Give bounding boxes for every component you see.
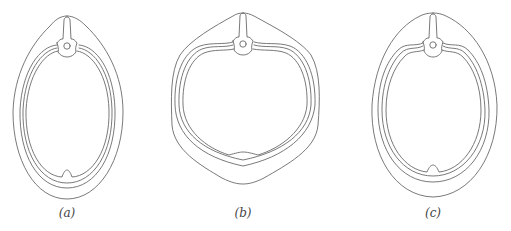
outer-body-outline [13, 16, 123, 199]
panel-a: (a) [13, 16, 123, 220]
panel-label-c: (c) [425, 206, 441, 220]
tube-inner-wall [26, 51, 109, 177]
vertebra-outline [423, 14, 443, 57]
tube-outer-wall [378, 43, 489, 182]
tube-inner-wall [386, 50, 481, 172]
vertebra-outline [233, 13, 253, 55]
panel-c: (c) [372, 13, 497, 220]
panel-b: (b) [171, 13, 319, 220]
panel-label-a: (a) [59, 206, 76, 220]
outer-body-outline [372, 13, 497, 197]
notochord-circle [430, 42, 436, 48]
notochord-circle [64, 43, 70, 49]
diagram-canvas: (a) (b) (c) [0, 0, 511, 231]
tube-outer-wall [175, 42, 315, 166]
notochord-circle [240, 41, 246, 47]
tube-inner-wall [183, 49, 307, 155]
outer-body-outline [171, 13, 319, 184]
tube-middle-wall [179, 45, 311, 160]
vertebra-outline [57, 17, 77, 57]
panel-label-b: (b) [234, 206, 251, 220]
